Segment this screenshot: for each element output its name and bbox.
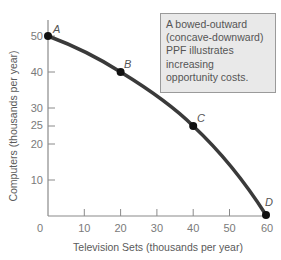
point-b-label: B — [124, 58, 131, 70]
y-tick-label: 20 — [31, 138, 43, 150]
y-tick-label: 10 — [31, 174, 43, 186]
x-tick-label: 10 — [78, 222, 90, 234]
point-c-label: C — [197, 112, 205, 124]
x-tick-label: 0 — [37, 222, 43, 234]
point-a-label: A — [52, 23, 60, 35]
x-tick-label: 60 — [261, 222, 273, 234]
y-tick-label: 30 — [31, 102, 43, 114]
annotation-line: (concave-downward) — [166, 31, 270, 44]
point-c — [189, 122, 197, 130]
y-axis-title: Computers (thousands per year) — [7, 50, 19, 201]
point-d-label: D — [265, 196, 273, 208]
annotation-line: increasing — [166, 58, 270, 71]
x-ticks — [84, 209, 229, 216]
x-tick-label: 30 — [151, 222, 163, 234]
annotation-line: PPF illustrates — [166, 44, 270, 57]
annotation-line: opportunity costs. — [166, 71, 270, 84]
y-tick-label: 25 — [31, 119, 43, 131]
x-axis-title: Television Sets (thousands per year) — [73, 241, 243, 253]
annotation-line: A bowed-outward — [166, 18, 270, 31]
annotation-box: A bowed-outward (concave-downward) PPF i… — [160, 13, 276, 93]
y-tick-label: 50 — [31, 30, 43, 42]
point-a — [44, 32, 52, 40]
y-tick-label: 40 — [31, 66, 43, 78]
x-tick-label: 40 — [187, 222, 199, 234]
x-tick-label: 20 — [114, 222, 126, 234]
point-d — [262, 211, 270, 219]
x-tick-label: 50 — [223, 222, 235, 234]
y-ticks — [48, 36, 55, 180]
